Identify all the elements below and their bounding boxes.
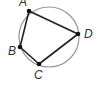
cyclic-quadrilateral-diagram: A D C B bbox=[0, 0, 98, 96]
label-b: B bbox=[8, 44, 16, 58]
label-d: D bbox=[84, 27, 93, 41]
label-a: A bbox=[18, 0, 27, 9]
label-c: C bbox=[34, 68, 43, 82]
quadrilateral-abcd bbox=[20, 11, 78, 64]
vertex-point-b bbox=[18, 45, 23, 50]
vertex-point-c bbox=[37, 62, 42, 67]
vertex-point-a bbox=[27, 9, 32, 14]
vertex-point-d bbox=[76, 32, 81, 37]
